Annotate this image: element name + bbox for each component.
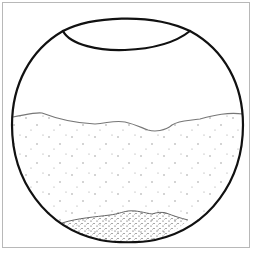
- flask-diagram: [0, 0, 255, 258]
- vessel-opening: [63, 31, 190, 50]
